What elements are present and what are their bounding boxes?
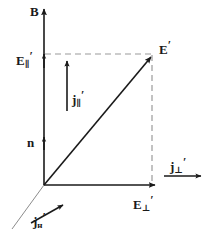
label-j-parallel-prime: ′ bbox=[81, 88, 84, 102]
label-magnetic-field: B bbox=[30, 5, 39, 18]
label-j-parallel: j∥′ bbox=[72, 89, 84, 108]
label-e-parallel-symbol: E bbox=[16, 53, 25, 68]
label-e-parallel-prime: ′ bbox=[29, 49, 32, 63]
label-normal-text: n bbox=[27, 135, 34, 150]
label-magnetic-field-text: B bbox=[30, 4, 39, 19]
diagram-canvas bbox=[0, 0, 207, 239]
label-e-perpendicular-prime: ′ bbox=[150, 193, 153, 207]
label-e-prime-prime: ′ bbox=[168, 38, 171, 52]
label-e-prime: E′ bbox=[159, 39, 171, 56]
label-j-perpendicular-subscript: ⊥ bbox=[174, 165, 183, 175]
label-e-prime-symbol: E bbox=[159, 42, 168, 57]
label-e-parallel: E∥′ bbox=[16, 50, 33, 69]
label-j-perpendicular: j⊥′ bbox=[170, 156, 186, 175]
label-j-hall: jн′ bbox=[33, 211, 46, 230]
vector-decomposition-diagram: B E∥′ n j∥′ E′ j⊥′ E⊥′ jн′ bbox=[0, 0, 207, 239]
e-prime-vector bbox=[44, 57, 151, 185]
label-e-perpendicular-symbol: E bbox=[133, 197, 142, 212]
label-j-hall-prime: ′ bbox=[43, 210, 46, 224]
label-normal: n bbox=[27, 136, 34, 149]
label-j-perpendicular-prime: ′ bbox=[183, 155, 186, 169]
label-e-perpendicular: E⊥′ bbox=[133, 194, 154, 213]
